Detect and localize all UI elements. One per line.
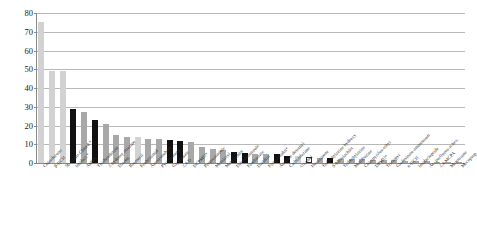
y-axis: 01020304050607080 (0, 0, 33, 176)
bars-layer (36, 13, 464, 163)
y-tick-label: 50 (5, 65, 33, 74)
y-tick-label: 80 (5, 9, 33, 18)
y-tick-label: 0 (5, 159, 33, 168)
y-tick-label: 60 (5, 47, 33, 56)
y-tick-label: 30 (5, 103, 33, 112)
y-tick-label: 10 (5, 140, 33, 149)
bar (38, 22, 44, 163)
y-tick-label: 20 (5, 122, 33, 131)
bar (49, 71, 55, 163)
y-tick-label: 40 (5, 84, 33, 93)
x-axis-category-labels: Chlordeconeβ-HCH5b-hydro-Chlord.*Imidacl… (36, 164, 464, 231)
y-tick-label: 70 (5, 28, 33, 37)
